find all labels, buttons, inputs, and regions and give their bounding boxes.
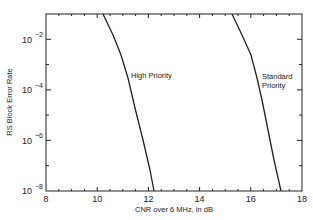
high-priority-label: High Priority [131, 71, 172, 80]
y-tick-labels: 10 −2 10 −4 10 −6 10 −8 [22, 31, 43, 196]
standard-priority-label-line1: Standard [262, 72, 292, 81]
x-tick-10: 10 [92, 194, 102, 204]
plot-frame [46, 14, 302, 191]
x-tick-8: 8 [43, 194, 48, 204]
x-tick-16: 16 [246, 194, 256, 204]
y-tick-1e-8: 10 [22, 186, 32, 196]
x-tick-18: 18 [297, 194, 307, 204]
x-axis-label: CNR over 6 MHz, in dB [135, 205, 213, 214]
y-tick-exp-6: −6 [35, 132, 43, 139]
y-tick-exp-4: −4 [35, 82, 43, 89]
y-ticks [46, 39, 302, 165]
y-tick-1e-2: 10 [22, 35, 32, 45]
x-tick-labels: 8 10 12 14 16 18 [43, 194, 307, 204]
high-priority-curve [103, 14, 154, 191]
y-tick-1e-4: 10 [22, 85, 32, 95]
standard-priority-label-line2: Priority [262, 81, 286, 90]
x-tick-12: 12 [143, 194, 153, 204]
x-tick-14: 14 [195, 194, 205, 204]
y-axis-label: RS Block Error Rate [5, 68, 14, 136]
y-tick-1e-6: 10 [22, 136, 32, 146]
chart: 8 10 12 14 16 18 10 −2 10 −4 10 −6 10 −8… [0, 0, 313, 220]
x-ticks [59, 14, 289, 191]
y-tick-exp-8: −8 [35, 183, 43, 190]
standard-priority-curve [232, 14, 281, 191]
y-tick-exp-2: −2 [35, 31, 43, 38]
